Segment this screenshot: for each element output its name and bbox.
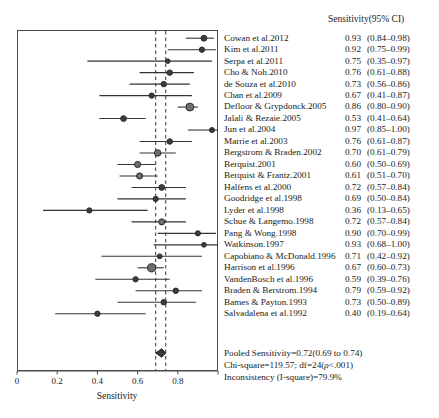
study-sensitivity-value: 0.93 [330,239,361,249]
study-confidence-interval: (0.75–0.99) [367,44,410,54]
study-label: Jun et al.2004 [224,124,275,134]
study-sensitivity-value: 0.79 [330,285,361,295]
chi-square-suffix: <.001) [329,360,353,370]
study-confidence-interval: (0.56–0.86) [367,79,410,89]
study-confidence-interval: (0.13–0.65) [367,205,410,215]
study-confidence-interval: (0.57–0.84) [367,182,410,192]
point-estimate-marker [157,254,162,259]
point-estimate-marker [159,219,165,225]
point-estimate-marker [154,150,160,156]
point-estimate-marker [199,47,204,52]
point-estimate-marker [133,277,138,282]
study-label: Chan et al.2009 [224,90,282,100]
forest-row [118,161,156,167]
study-sensitivity-value: 0.60 [330,159,361,169]
study-sensitivity-value: 0.86 [330,101,361,111]
study-label: Marrie et al.2003 [224,136,288,146]
forest-row [186,35,214,41]
study-confidence-interval: (0.61–0.79) [367,147,410,157]
forest-row [168,47,216,52]
forest-row [178,103,198,111]
study-sensitivity-value: 0.72 [330,216,361,226]
point-estimate-marker [153,196,158,201]
study-sensitivity-value: 0.40 [330,308,361,318]
study-confidence-interval: (0.19–0.64) [367,308,410,318]
study-sensitivity-value: 0.70 [330,147,361,157]
forest-row [140,150,176,156]
study-sensitivity-value: 0.90 [330,228,361,238]
pooled-sensitivity-text: Pooled Sensitivity=0.72(0.69 to 0.74) [224,348,362,358]
forest-plot-figure: Sensitivity(95% CI) 00.20.40.60.8 Sensit… [0,0,439,418]
point-estimate-marker [137,173,143,179]
study-sensitivity-value: 0.69 [330,193,361,203]
study-sensitivity-value: 0.67 [330,262,361,272]
study-label: Goodridge et al.1998 [224,193,302,203]
study-sensitivity-value: 0.53 [330,113,361,123]
forest-row [99,116,145,122]
forest-row [138,264,164,272]
study-label: Watkinson.1997 [224,239,284,249]
study-label: Berquist & Frantz.2001 [224,170,311,180]
forest-row [95,277,169,282]
point-estimate-marker [202,242,207,247]
study-confidence-interval: (0.61–0.87) [367,136,410,146]
forest-row [118,196,186,201]
study-confidence-interval: (0.57–0.84) [367,216,410,226]
point-estimate-marker [121,116,127,122]
point-estimate-marker [165,59,170,64]
forest-row [132,185,186,191]
forest-row [43,208,148,213]
study-rows-layer [43,35,217,316]
study-confidence-interval: (0.85–1.00) [367,124,410,134]
point-estimate-marker [195,231,200,236]
forest-row [154,242,218,247]
point-estimate-marker [209,128,214,133]
forest-row [120,173,158,179]
study-label: Halfens et al.2000 [224,182,291,192]
study-confidence-interval: (0.39–0.76) [367,274,410,284]
forest-row [101,254,202,259]
forest-row [136,288,202,293]
point-estimate-marker [149,93,154,98]
study-confidence-interval: (0.61–0.88) [367,67,410,77]
point-estimate-marker [161,81,166,86]
study-label: Defloor & Grypdonck.2005 [224,101,326,111]
study-label: Bergstrom & Braden.2002 [224,147,322,157]
forest-row [55,311,145,316]
x-tick-label-1: 0.2 [52,376,63,386]
study-confidence-interval: (0.84–0.98) [367,33,410,43]
study-sensitivity-value: 0.97 [330,124,361,134]
study-sensitivity-value: 0.72 [330,182,361,192]
study-confidence-interval: (0.60–0.73) [367,262,410,272]
study-label: Serpa et al.2011 [224,56,283,66]
x-tick-label-2: 0.4 [92,376,103,386]
point-estimate-marker [201,35,207,41]
study-label: Braden & Berstrom.1994 [224,285,317,295]
study-confidence-interval: (0.70–0.99) [367,228,410,238]
x-tick-label-4: 0.8 [172,376,183,386]
forest-row [118,300,196,305]
chi-square-text: Chi-square=119.57; df=24(ρ<.001) [224,360,353,370]
x-axis-title: Sensitivity [97,391,138,401]
study-sensitivity-value: 0.93 [330,33,361,43]
study-confidence-interval: (0.50–0.69) [367,159,410,169]
study-label: Lyder et al.1998 [224,205,284,215]
pooled-diamond-layer [156,349,166,357]
study-confidence-interval: (0.41–0.87) [367,90,410,100]
study-confidence-interval: (0.50–0.84) [367,193,410,203]
study-confidence-interval: (0.42–0.92) [367,251,410,261]
pooled-estimate-diamond [156,349,166,357]
study-label: Cho & Noh.2010 [224,67,288,77]
study-sensitivity-value: 0.71 [330,251,361,261]
forest-row [130,81,190,86]
point-estimate-marker [159,185,165,191]
study-label: VandenBosch et al.1996 [224,274,313,284]
forest-row [188,128,218,133]
study-sensitivity-value: 0.73 [330,79,361,89]
study-sensitivity-value: 0.92 [330,44,361,54]
point-estimate-marker [148,264,156,272]
study-sensitivity-value: 0.76 [330,67,361,77]
forest-row [99,93,191,98]
study-sensitivity-value: 0.76 [330,136,361,146]
study-label: Cowan et al.2012 [224,33,289,43]
